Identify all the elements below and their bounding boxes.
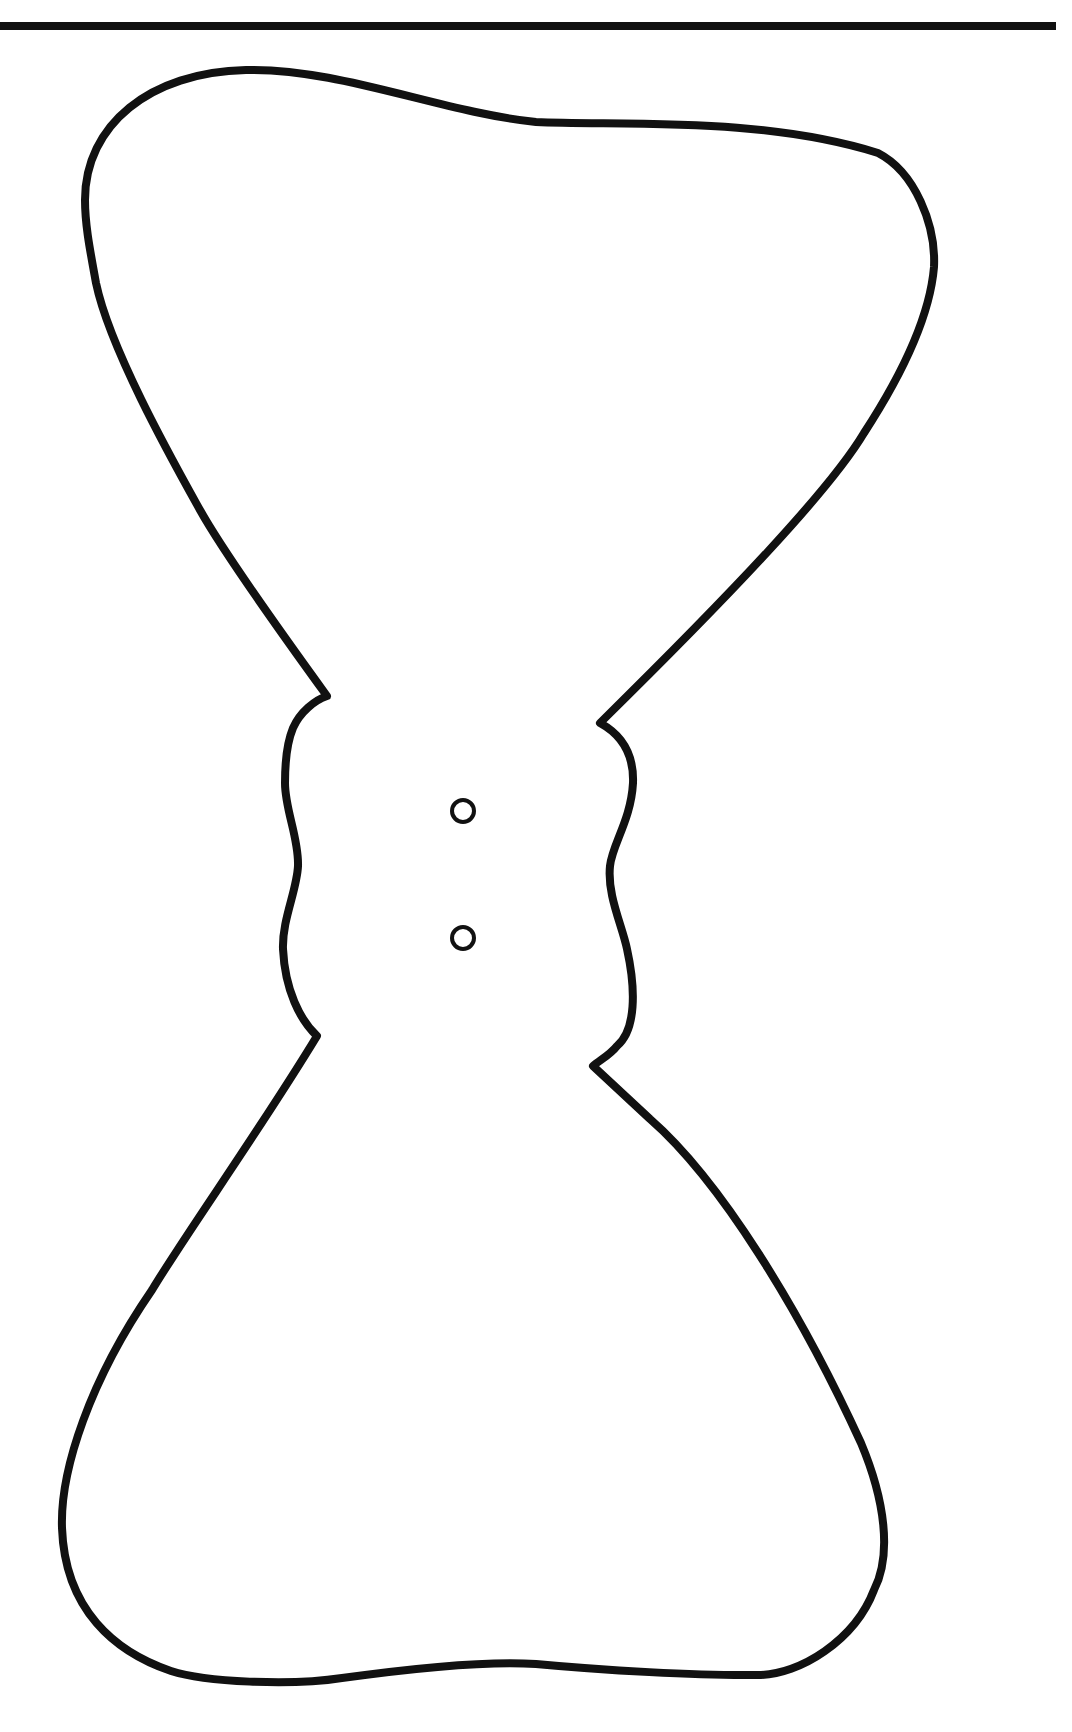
hole-top-icon — [452, 800, 474, 822]
hole-bottom-icon — [452, 927, 474, 949]
bow-tie-template — [0, 0, 1072, 1732]
printable-page: Bow tie cut-out template — [0, 0, 1072, 1732]
bow-tie-outline — [62, 70, 934, 1682]
